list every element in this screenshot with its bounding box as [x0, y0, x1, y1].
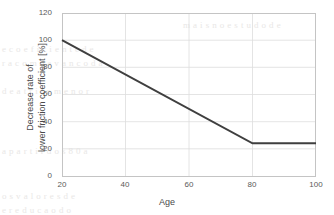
x-tick-label-60: 60 — [177, 180, 201, 189]
y-axis-title: Decrease rate of lower friction coeffici… — [14, 20, 44, 175]
y-tick-label-120: 120 — [26, 8, 52, 17]
chart-figure: m a i s n o e s t u d o d e e c o e f i … — [0, 0, 334, 215]
x-tick-label-20: 20 — [50, 180, 74, 189]
x-axis-title: Age — [0, 197, 334, 207]
x-tick-label-100: 100 — [304, 180, 328, 189]
x-tick-label-40: 40 — [113, 180, 137, 189]
x-tick-label-80: 80 — [240, 180, 264, 189]
y-axis-title-line-2: lower friction coefficient [%] — [37, 20, 192, 175]
